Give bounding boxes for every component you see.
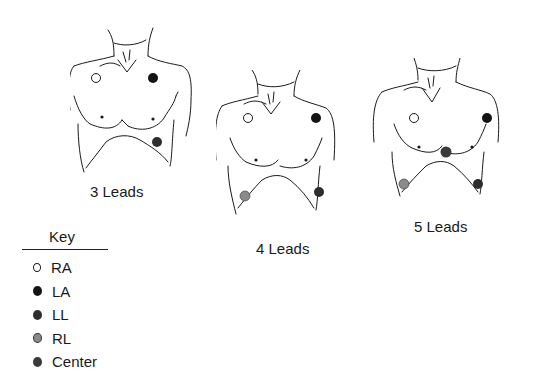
torso-3-leads — [70, 0, 210, 180]
legend-label: LL — [52, 306, 69, 323]
legend-item-RL: RL — [22, 327, 112, 351]
electrode-Center — [441, 147, 452, 158]
electrode-LL — [152, 137, 162, 147]
legend-item-LA: LA — [22, 280, 112, 304]
electrode-LA — [311, 113, 321, 123]
legend-label: RA — [51, 259, 72, 276]
torso-3-leads-drawing — [70, 0, 210, 180]
legend: Key RA LA LL RL Center — [22, 228, 112, 374]
electrode-LA — [148, 73, 158, 83]
legend-item-Center: Center — [22, 350, 112, 374]
filled-circle-icon — [33, 357, 42, 367]
electrode-LA — [482, 113, 492, 123]
filled-circle-icon — [33, 310, 42, 320]
caption-5-leads: 5 Leads — [414, 218, 467, 235]
legend-label: LA — [52, 283, 70, 300]
legend-item-LL: LL — [22, 303, 112, 327]
torso-4-leads-drawing — [216, 70, 356, 220]
nipple-icon — [151, 117, 154, 120]
open-circle-icon — [33, 263, 41, 272]
electrode-RA — [244, 114, 253, 123]
nipple-icon — [304, 158, 307, 161]
legend-list: RA LA LL RL Center — [22, 256, 112, 374]
torso-4-leads — [216, 70, 356, 220]
torso-5-leads-drawing — [372, 58, 512, 208]
electrode-RL — [399, 179, 409, 189]
electrode-RL — [240, 191, 250, 201]
filled-circle-icon — [33, 333, 42, 343]
legend-label: Center — [52, 353, 97, 370]
electrode-RA — [410, 114, 419, 123]
nipple-icon — [254, 158, 257, 161]
electrode-LL — [314, 187, 324, 197]
nipple-icon — [470, 145, 473, 148]
caption-3-leads: 3 Leads — [90, 183, 143, 200]
electrode-RA — [92, 74, 101, 83]
electrode-LL — [473, 179, 483, 189]
caption-4-leads: 4 Leads — [256, 240, 309, 257]
legend-label: RL — [52, 330, 71, 347]
torso-5-leads — [372, 58, 512, 208]
legend-divider — [22, 249, 108, 250]
nipple-icon — [100, 115, 103, 118]
nipple-icon — [417, 145, 420, 148]
legend-title: Key — [22, 228, 102, 245]
legend-item-RA: RA — [22, 256, 112, 280]
filled-circle-icon — [33, 286, 42, 296]
